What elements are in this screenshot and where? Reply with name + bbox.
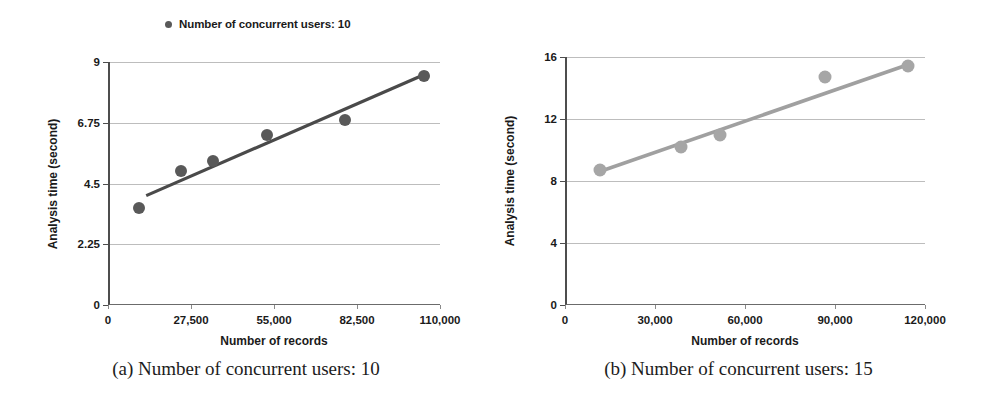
legend-panel-a: Number of concurrent users: 10 — [165, 18, 350, 30]
x-tick-label: 120,000 — [904, 314, 946, 326]
trendline — [567, 57, 927, 305]
data-point-marker — [901, 60, 914, 73]
data-point-marker — [714, 128, 727, 141]
x-tick-mark — [191, 305, 192, 309]
x-tick-mark — [440, 305, 441, 309]
legend-label: Number of concurrent users: 10 — [179, 18, 350, 30]
data-point-marker — [594, 164, 607, 177]
figure-caption-b: (b) Number of concurrent users: 15 — [492, 358, 985, 380]
figure-two-panel-scatter: Number of concurrent users: 10 02.254.56… — [0, 0, 985, 413]
data-point-marker — [819, 71, 832, 84]
x-tick-label: 0 — [105, 314, 111, 326]
x-tick-label: 55,000 — [256, 314, 291, 326]
y-tick-mark — [560, 243, 565, 244]
x-tick-mark — [835, 305, 836, 309]
y-tick-mark — [103, 62, 108, 63]
x-tick-label: 110,000 — [420, 314, 461, 326]
x-tick-label: 27,500 — [173, 314, 208, 326]
x-tick-mark — [565, 305, 566, 309]
y-axis-title: Analysis time (second) — [46, 118, 60, 249]
y-tick-label: 9 — [62, 56, 100, 68]
x-tick-mark — [655, 305, 656, 309]
figure-caption-a: (a) Number of concurrent users: 10 — [0, 358, 492, 380]
data-point-marker — [207, 155, 219, 167]
x-tick-mark — [274, 305, 275, 309]
x-tick-label: 90,000 — [817, 314, 852, 326]
trendline — [110, 62, 442, 305]
x-tick-label: 82,500 — [339, 314, 374, 326]
y-tick-label: 0 — [519, 299, 557, 311]
y-tick-mark — [103, 244, 108, 245]
x-tick-mark — [925, 305, 926, 309]
y-tick-mark — [103, 184, 108, 185]
panel-a: Number of concurrent users: 10 02.254.56… — [0, 0, 492, 413]
data-point-marker — [339, 114, 351, 126]
x-tick-label: 60,000 — [727, 314, 762, 326]
y-tick-label: 4.5 — [62, 178, 100, 190]
legend-marker-icon — [165, 21, 172, 28]
y-tick-label: 0 — [62, 299, 100, 311]
x-tick-label: 0 — [562, 314, 568, 326]
y-axis-title: Analysis time (second) — [503, 116, 517, 247]
y-tick-label: 4 — [519, 237, 557, 249]
x-tick-mark — [745, 305, 746, 309]
plot-area — [565, 57, 925, 305]
plot-area — [108, 62, 440, 305]
data-point-marker — [418, 70, 430, 82]
y-tick-mark — [560, 181, 565, 182]
y-tick-label: 16 — [519, 51, 557, 63]
y-tick-mark — [560, 119, 565, 120]
panel-b: Number of concurrent users: 15 048121603… — [492, 0, 985, 413]
x-tick-label: 30,000 — [637, 314, 672, 326]
data-point-marker — [261, 129, 273, 141]
y-tick-label: 2.25 — [62, 238, 100, 250]
data-point-marker — [675, 140, 688, 153]
x-tick-mark — [357, 305, 358, 309]
y-tick-mark — [560, 57, 565, 58]
data-point-marker — [133, 202, 145, 214]
y-tick-label: 6.75 — [62, 117, 100, 129]
data-point-marker — [175, 165, 187, 177]
y-tick-mark — [103, 123, 108, 124]
x-tick-mark — [108, 305, 109, 309]
x-axis-title: Number of records — [565, 334, 925, 348]
y-tick-label: 12 — [519, 113, 557, 125]
y-tick-label: 8 — [519, 175, 557, 187]
x-axis-title: Number of records — [108, 334, 440, 348]
